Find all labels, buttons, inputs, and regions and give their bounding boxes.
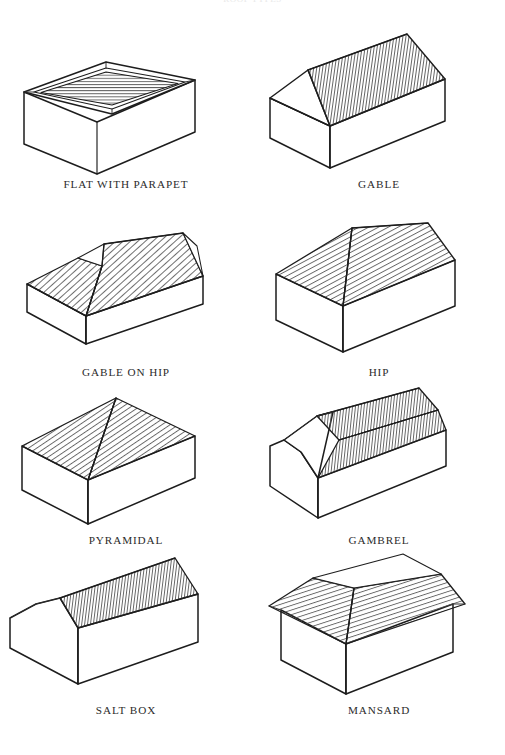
- figure-label-pyramidal: PYRAMIDAL: [0, 534, 252, 546]
- figure-hip: [253, 210, 505, 370]
- figure-gable-on-hip: [0, 210, 252, 370]
- figure-cell-gambrel: GAMBREL: [253, 378, 505, 566]
- figure-cell-pyramidal: PYRAMIDAL: [0, 378, 252, 566]
- figure-label-flat-with-parapet: FLAT WITH PARAPET: [0, 178, 252, 190]
- figure-cell-salt-box: SALT BOX: [0, 548, 252, 736]
- figure-grid: FLAT WITH PARAPET: [0, 0, 505, 755]
- figure-cell-gable: GABLE: [253, 22, 505, 210]
- figure-mansard: [253, 548, 505, 708]
- figure-label-salt-box: SALT BOX: [0, 704, 252, 716]
- figure-flat-with-parapet: [0, 22, 252, 182]
- figure-gable: [253, 22, 505, 182]
- figure-label-gambrel: GAMBREL: [253, 534, 505, 546]
- figure-cell-flat-with-parapet: FLAT WITH PARAPET: [0, 22, 252, 210]
- roof-types-plate: ROOF TYPES: [0, 0, 505, 755]
- figure-cell-mansard: MANSARD: [253, 548, 505, 736]
- figure-label-mansard: MANSARD: [253, 704, 505, 716]
- figure-gambrel: [253, 378, 505, 538]
- figure-salt-box: [0, 548, 252, 708]
- figure-label-hip: HIP: [253, 366, 505, 378]
- figure-label-gable-on-hip: GABLE ON HIP: [0, 366, 252, 378]
- figure-cell-hip: HIP: [253, 210, 505, 398]
- figure-cell-gable-on-hip: GABLE ON HIP: [0, 210, 252, 398]
- figure-pyramidal: [0, 378, 252, 538]
- figure-label-gable: GABLE: [253, 178, 505, 190]
